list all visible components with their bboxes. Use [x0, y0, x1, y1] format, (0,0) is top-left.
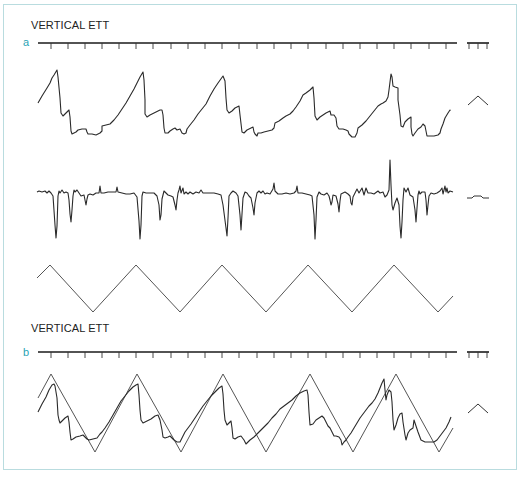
panel-a-flatline-icon	[467, 196, 489, 198]
waveform-canvas	[0, 0, 524, 477]
panel-a-trace-2-spikes	[37, 160, 453, 239]
panel-b-caret-icon	[468, 404, 488, 413]
panel-a-trace-1-sawtooth	[38, 70, 450, 137]
panel-a-caret-icon	[468, 96, 488, 105]
time-rulers	[38, 43, 489, 358]
panel-b-triangle-reference	[38, 374, 453, 452]
waveform-traces	[37, 70, 453, 452]
panel-a-trace-3-triangle	[37, 265, 453, 312]
calibration-icons	[467, 96, 489, 413]
